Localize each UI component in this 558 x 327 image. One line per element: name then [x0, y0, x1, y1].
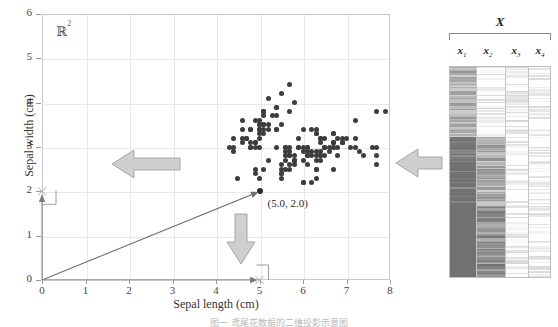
y-tick-label: 1	[10, 228, 32, 240]
y-tick-mark	[36, 103, 41, 104]
scatter-point	[292, 158, 297, 163]
scatter-point	[301, 145, 306, 150]
scatter-point	[274, 145, 279, 150]
scatter-point	[331, 145, 336, 150]
matrix-column-header-x3: x3	[503, 44, 529, 59]
gridline-horizontal	[43, 104, 389, 105]
x-tick-label: 8	[375, 284, 405, 296]
x-tick-label: 4	[201, 284, 231, 296]
gridline-vertical	[87, 15, 88, 279]
matrix-brace	[449, 33, 551, 40]
scatter-point	[279, 171, 284, 176]
x-tick-mark	[216, 280, 217, 284]
x-tick-label: 2	[114, 284, 144, 296]
y-tick-label: 6	[10, 6, 32, 18]
scatter-point	[301, 180, 306, 185]
scatter-point	[322, 136, 327, 141]
scatter-point	[231, 149, 236, 154]
figure-root: ℝ2 0123456780123456 Sepal length (cm) Se…	[0, 0, 558, 327]
matrix-column-x1	[450, 67, 476, 277]
x-tick-mark	[86, 280, 87, 284]
scatter-point	[292, 100, 297, 105]
scatter-point	[314, 127, 319, 132]
x-tick-mark	[303, 280, 304, 284]
x-axis-label: Sepal length (cm)	[42, 297, 390, 312]
x-tick-label: 6	[288, 284, 318, 296]
matrix-column-x2	[476, 67, 506, 277]
y-tick-mark	[36, 236, 41, 237]
matrix-column-header-x4: x4	[527, 44, 553, 59]
scatter-point	[279, 167, 284, 172]
scatter-point	[335, 136, 340, 141]
x-tick-label: 1	[71, 284, 101, 296]
scatter-point	[305, 145, 310, 150]
x-tick-label: 5	[245, 284, 275, 296]
scatter-point	[353, 118, 358, 123]
x-tick-mark	[390, 280, 391, 284]
scatter-point	[344, 136, 349, 141]
y-tick-mark	[36, 58, 41, 59]
scatter-point	[279, 162, 284, 167]
matrix-row	[529, 276, 551, 277]
scatter-point	[240, 140, 245, 145]
scatter-point	[266, 127, 271, 132]
y-axis-label: Sepal width (cm)	[22, 61, 37, 211]
figure-caption: 图一 鸢尾花数据的二维投影示意图	[0, 316, 558, 327]
point-annotation-label: (5.0, 2.0)	[268, 197, 308, 209]
scatter-point	[266, 158, 271, 163]
scatter-point	[235, 176, 240, 181]
gridline-vertical	[217, 15, 218, 279]
matrix-column-header-x1: x1	[449, 44, 475, 59]
y-tick-label: 0	[10, 272, 32, 284]
gridline-horizontal	[43, 192, 389, 193]
matrix-column-x3	[505, 67, 529, 277]
scatter-point	[248, 145, 253, 150]
scatter-point	[301, 127, 306, 132]
scatter-point	[314, 153, 319, 158]
scatter-point	[257, 136, 262, 141]
gridline-vertical	[174, 15, 175, 279]
y-tick-mark	[36, 191, 41, 192]
matrix-row	[506, 276, 529, 277]
x-tick-label: 3	[158, 284, 188, 296]
scatter-point	[327, 149, 332, 154]
scatter-point	[318, 140, 323, 145]
scatter-point	[340, 140, 345, 145]
matrix-column-header-x2: x2	[475, 44, 501, 59]
x-tick-mark	[260, 280, 261, 284]
scatter-point	[314, 176, 319, 181]
scatter-point	[231, 136, 236, 141]
scatter-point-highlighted	[257, 188, 263, 194]
matrix-body	[449, 66, 551, 278]
y-tick-mark	[36, 280, 41, 281]
x-tick-label: 0	[27, 284, 57, 296]
gridline-vertical	[130, 15, 131, 279]
scatter-point	[296, 145, 301, 150]
scatter-point	[301, 149, 306, 154]
y-tick-mark	[36, 147, 41, 148]
x-tick-mark	[173, 280, 174, 284]
scatter-point	[314, 167, 319, 172]
scatter-point	[353, 145, 358, 150]
scatter-point	[283, 158, 288, 163]
scatter-point	[353, 136, 358, 141]
matrix-row	[450, 276, 476, 277]
arrow-matrix-to-scatter	[396, 149, 442, 177]
scatter-point	[266, 96, 271, 101]
scatter-point	[335, 145, 340, 150]
scatter-point	[279, 176, 284, 181]
scatter-point	[322, 145, 327, 150]
matrix-row	[477, 276, 506, 277]
scatter-point	[240, 118, 245, 123]
scatter-point	[331, 167, 336, 172]
y-tick-mark	[36, 14, 41, 15]
scatter-point	[253, 167, 258, 172]
space-label: ℝ2	[56, 24, 72, 40]
x-tick-mark	[42, 280, 43, 284]
matrix-column-x4	[528, 67, 551, 277]
scatter-point	[253, 140, 258, 145]
x-tick-mark	[129, 280, 130, 284]
data-matrix-panel: X x1x2x3x4	[447, 14, 553, 280]
scatter-point	[314, 158, 319, 163]
scatter-point	[318, 158, 323, 163]
